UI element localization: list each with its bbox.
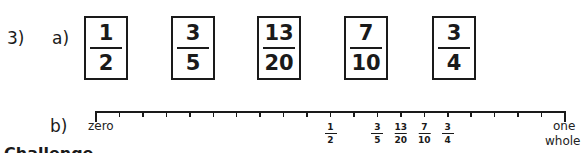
denominator: 20 (395, 135, 408, 145)
fraction-bar (90, 47, 122, 49)
denominator: 10 (351, 51, 380, 75)
numerator: 7 (421, 122, 427, 132)
denominator: 4 (447, 51, 462, 75)
numerator: 13 (264, 21, 293, 45)
tick-mark (142, 111, 144, 117)
denominator: 20 (264, 51, 293, 75)
part-b-label: b) (50, 116, 67, 136)
numerator: 1 (327, 122, 333, 132)
fraction-bar (350, 47, 382, 49)
tick-mark (470, 111, 472, 117)
fraction-bar (325, 133, 337, 134)
fraction-card: 34 (432, 16, 476, 80)
denominator: 2 (327, 135, 333, 145)
tick-mark (119, 111, 121, 117)
fraction-card: 35 (171, 16, 215, 80)
numerator: 3 (447, 21, 462, 45)
tick-mark (494, 111, 496, 117)
denominator: 5 (374, 135, 380, 145)
tick-mark (306, 111, 308, 117)
fraction-card: 710 (344, 16, 388, 80)
numerator: 1 (99, 21, 114, 45)
numerator: 7 (359, 21, 374, 45)
tick-mark (213, 111, 215, 117)
whole-label: whole (545, 134, 580, 148)
one-label: one (553, 119, 575, 133)
tick-mark (166, 111, 168, 117)
denominator: 10 (418, 135, 431, 145)
tick-mark (517, 111, 519, 117)
marker-fraction: 710 (418, 122, 431, 145)
fraction-card: 1320 (257, 16, 301, 80)
tick-mark (541, 111, 543, 117)
marker-fraction: 1320 (395, 122, 408, 145)
tick-mark (236, 111, 238, 117)
denominator: 4 (445, 135, 451, 145)
marker-fraction: 35 (371, 122, 383, 145)
numerator: 3 (186, 21, 201, 45)
denominator: 2 (99, 51, 114, 75)
zero-label: zero (88, 119, 114, 133)
numerator: 3 (374, 122, 380, 132)
fraction-bar (395, 133, 407, 134)
part-a-label: a) (52, 28, 69, 48)
tick-mark (353, 111, 355, 117)
fraction-bar (263, 47, 295, 49)
question-number: 3) (7, 28, 24, 48)
tick-mark (424, 111, 426, 117)
fraction-bar (438, 47, 470, 49)
fraction-bar (442, 133, 454, 134)
fraction-bar (371, 133, 383, 134)
tick-mark (259, 111, 261, 117)
challenge-heading: Challenge (4, 144, 93, 153)
tick-mark (189, 111, 191, 117)
tick-mark (400, 111, 402, 117)
tick-mark (447, 111, 449, 117)
fraction-card: 12 (84, 16, 128, 80)
tick-mark (377, 111, 379, 117)
fraction-bar (418, 133, 430, 134)
denominator: 5 (186, 51, 201, 75)
numerator: 13 (395, 122, 408, 132)
marker-fraction: 34 (442, 122, 454, 145)
marker-fraction: 12 (325, 122, 337, 145)
tick-mark (330, 111, 332, 117)
numerator: 3 (445, 122, 451, 132)
fraction-bar (177, 47, 209, 49)
tick-mark (283, 111, 285, 117)
